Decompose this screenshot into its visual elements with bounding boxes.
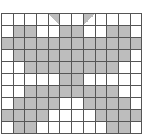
grid-cell-r1-c9[interactable] <box>107 26 119 38</box>
grid-cell-r7-c10[interactable] <box>119 98 131 110</box>
grid-cell-r3-c5[interactable] <box>60 50 72 62</box>
grid-cell-r7-c11[interactable] <box>131 98 143 110</box>
grid-cell-r0-c10[interactable] <box>119 14 131 26</box>
grid-cell-r2-c11[interactable] <box>131 38 143 50</box>
grid-cell-r2-c4[interactable] <box>49 38 61 50</box>
grid-cell-r5-c1[interactable] <box>14 74 26 86</box>
grid-cell-r5-c4[interactable] <box>49 74 61 86</box>
grid-cell-r5-c11[interactable] <box>131 74 143 86</box>
grid-cell-r8-c3[interactable] <box>37 110 49 122</box>
grid-cell-r0-c3[interactable] <box>37 14 49 26</box>
grid-cell-r3-c4[interactable] <box>49 50 61 62</box>
grid-cell-r3-c11[interactable] <box>131 50 143 62</box>
grid-cell-r9-c5[interactable] <box>60 122 72 134</box>
grid-cell-r0-c8[interactable] <box>96 14 108 26</box>
grid-cell-r9-c9[interactable] <box>107 122 119 134</box>
grid-cell-r1-c3[interactable] <box>37 26 49 38</box>
grid-cell-r6-c5[interactable] <box>60 86 72 98</box>
grid-cell-r0-c7[interactable] <box>84 14 96 26</box>
grid-cell-r7-c2[interactable] <box>25 98 37 110</box>
grid-cell-r5-c0[interactable] <box>2 74 14 86</box>
grid-cell-r6-c1[interactable] <box>14 86 26 98</box>
grid-cell-r5-c10[interactable] <box>119 74 131 86</box>
grid-cell-r2-c7[interactable] <box>84 38 96 50</box>
grid-cell-r8-c11[interactable] <box>131 110 143 122</box>
grid-cell-r3-c0[interactable] <box>2 50 14 62</box>
grid-cell-r1-c1[interactable] <box>14 26 26 38</box>
grid-cell-r8-c7[interactable] <box>84 110 96 122</box>
grid-cell-r9-c0[interactable] <box>2 122 14 134</box>
grid-cell-r5-c5[interactable] <box>60 74 72 86</box>
grid-cell-r7-c8[interactable] <box>96 98 108 110</box>
grid-cell-r0-c11[interactable] <box>131 14 143 26</box>
grid-cell-r3-c3[interactable] <box>37 50 49 62</box>
grid-cell-r0-c9[interactable] <box>107 14 119 26</box>
grid-cell-r2-c6[interactable] <box>72 38 84 50</box>
grid-cell-r6-c9[interactable] <box>107 86 119 98</box>
grid-cell-r6-c3[interactable] <box>37 86 49 98</box>
grid-cell-r5-c7[interactable] <box>84 74 96 86</box>
grid-cell-r9-c6[interactable] <box>72 122 84 134</box>
grid-cell-r8-c0[interactable] <box>2 110 14 122</box>
grid-cell-r2-c2[interactable] <box>25 38 37 50</box>
grid-cell-r1-c6[interactable] <box>72 26 84 38</box>
grid-cell-r9-c7[interactable] <box>84 122 96 134</box>
grid-cell-r9-c10[interactable] <box>119 122 131 134</box>
grid-cell-r0-c1[interactable] <box>14 14 26 26</box>
grid-cell-r5-c9[interactable] <box>107 74 119 86</box>
grid-cell-r3-c9[interactable] <box>107 50 119 62</box>
grid-cell-r2-c8[interactable] <box>96 38 108 50</box>
grid-cell-r6-c10[interactable] <box>119 86 131 98</box>
grid-cell-r8-c4[interactable] <box>49 110 61 122</box>
grid-cell-r0-c4[interactable] <box>49 14 61 26</box>
grid-cell-r4-c6[interactable] <box>72 62 84 74</box>
grid-cell-r2-c3[interactable] <box>37 38 49 50</box>
grid-cell-r1-c11[interactable] <box>131 26 143 38</box>
grid-cell-r5-c2[interactable] <box>25 74 37 86</box>
grid-cell-r1-c0[interactable] <box>2 26 14 38</box>
grid-cell-r3-c2[interactable] <box>25 50 37 62</box>
grid-cell-r8-c8[interactable] <box>96 110 108 122</box>
grid-cell-r0-c0[interactable] <box>2 14 14 26</box>
grid-cell-r7-c1[interactable] <box>14 98 26 110</box>
grid-cell-r9-c8[interactable] <box>96 122 108 134</box>
grid-cell-r8-c1[interactable] <box>14 110 26 122</box>
grid-cell-r4-c9[interactable] <box>107 62 119 74</box>
grid-cell-r3-c6[interactable] <box>72 50 84 62</box>
grid-cell-r1-c4[interactable] <box>49 26 61 38</box>
grid-cell-r4-c4[interactable] <box>49 62 61 74</box>
grid-cell-r4-c11[interactable] <box>131 62 143 74</box>
grid-cell-r0-c2[interactable] <box>25 14 37 26</box>
grid-cell-r7-c7[interactable] <box>84 98 96 110</box>
grid-cell-r2-c10[interactable] <box>119 38 131 50</box>
grid-cell-r2-c0[interactable] <box>2 38 14 50</box>
grid-cell-r7-c0[interactable] <box>2 98 14 110</box>
grid-cell-r2-c5[interactable] <box>60 38 72 50</box>
grid-cell-r1-c2[interactable] <box>25 26 37 38</box>
grid-cell-r4-c3[interactable] <box>37 62 49 74</box>
grid-cell-r4-c2[interactable] <box>25 62 37 74</box>
grid-cell-r8-c10[interactable] <box>119 110 131 122</box>
grid-cell-r3-c1[interactable] <box>14 50 26 62</box>
grid-cell-r0-c5[interactable] <box>60 14 72 26</box>
grid-cell-r3-c7[interactable] <box>84 50 96 62</box>
grid-cell-r4-c7[interactable] <box>84 62 96 74</box>
grid-cell-r6-c4[interactable] <box>49 86 61 98</box>
grid-cell-r6-c8[interactable] <box>96 86 108 98</box>
grid-cell-r1-c8[interactable] <box>96 26 108 38</box>
grid-cell-r6-c2[interactable] <box>25 86 37 98</box>
grid-cell-r0-c6[interactable] <box>72 14 84 26</box>
grid-cell-r3-c10[interactable] <box>119 50 131 62</box>
grid-cell-r7-c3[interactable] <box>37 98 49 110</box>
grid-cell-r6-c7[interactable] <box>84 86 96 98</box>
grid-cell-r2-c9[interactable] <box>107 38 119 50</box>
grid-cell-r9-c2[interactable] <box>25 122 37 134</box>
grid-cell-r7-c9[interactable] <box>107 98 119 110</box>
grid-cell-r4-c8[interactable] <box>96 62 108 74</box>
grid-cell-r4-c1[interactable] <box>14 62 26 74</box>
grid-cell-r6-c6[interactable] <box>72 86 84 98</box>
grid-cell-r8-c5[interactable] <box>60 110 72 122</box>
grid-cell-r4-c5[interactable] <box>60 62 72 74</box>
grid-cell-r1-c5[interactable] <box>60 26 72 38</box>
grid-cell-r1-c7[interactable] <box>84 26 96 38</box>
